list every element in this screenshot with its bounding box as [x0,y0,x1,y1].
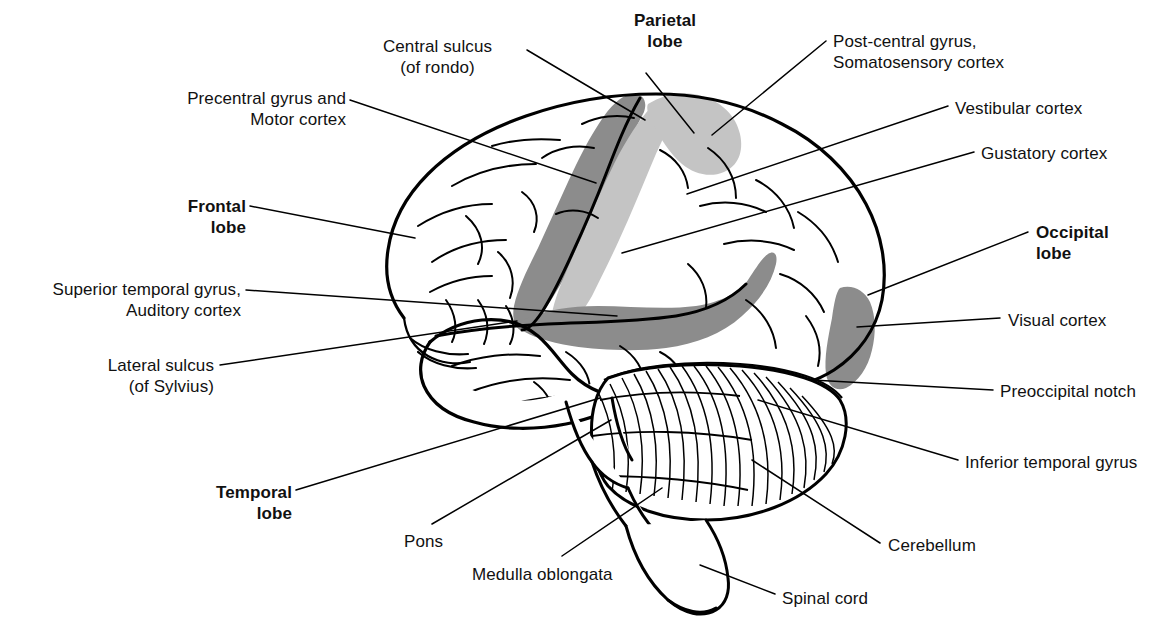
label-vestibular-cortex: Vestibular cortex [955,98,1125,119]
label-preoccipital-notch: Preoccipital notch [1000,381,1152,402]
label-medulla-oblongata: Medulla oblongata [472,564,647,585]
leader-post-central-gyrus [712,41,826,135]
leader-occipital-lobe [868,232,1028,295]
label-post-central-gyrus: Post-central gyrus, Somatosensory cortex [833,31,1063,73]
label-superior-temporal-gyrus: Superior temporal gyrus, Auditory cortex [16,279,241,321]
label-precentral-gyrus: Precentral gyrus and Motor cortex [148,88,346,130]
shaded-cortex-regions [513,93,875,389]
brain-anatomy-diagram: Central sulcus (of rondo)Parietal lobePo… [0,0,1152,637]
label-visual-cortex: Visual cortex [1008,310,1143,331]
label-parietal-lobe: Parietal lobe [610,10,720,52]
parietal-cap-shading [647,93,741,175]
label-temporal-lobe: Temporal lobe [182,482,292,524]
label-gustatory-cortex: Gustatory cortex [981,143,1146,164]
leader-visual-cortex [857,318,1000,327]
label-occipital-lobe: Occipital lobe [1036,222,1140,264]
label-inferior-temporal-gyrus: Inferior temporal gyrus [965,452,1152,473]
label-pons: Pons [404,531,464,552]
label-lateral-sulcus: Lateral sulcus (of Sylvius) [66,355,214,397]
leader-precentral-gyrus [350,100,596,183]
label-frontal-lobe: Frontal lobe [150,196,246,238]
leader-pons [432,420,611,524]
label-cerebellum: Cerebellum [888,535,1008,556]
leader-lateral-sulcus [220,321,517,365]
leader-frontal-lobe [250,206,415,238]
label-central-sulcus: Central sulcus (of rondo) [345,36,530,78]
leader-gustatory-cortex [622,152,974,253]
label-spinal-cord: Spinal cord [782,588,902,609]
